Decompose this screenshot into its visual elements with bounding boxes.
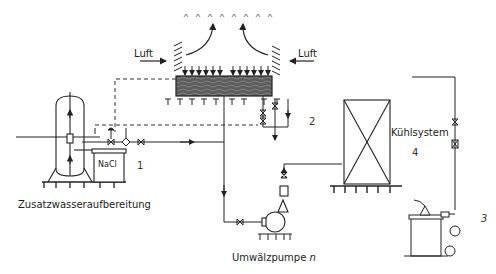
louver-right (272, 46, 280, 75)
vapor-marks (184, 14, 272, 17)
dosing-station (404, 200, 460, 256)
number-1: 1 (137, 161, 143, 171)
cooling-tower-basin (176, 76, 272, 96)
pump-supports (258, 234, 292, 240)
air-left-label: Luft (134, 49, 153, 59)
return-line (412, 77, 458, 210)
spray-arrows (185, 66, 268, 75)
salt-label: NaCl (98, 161, 117, 169)
cooling-system-supports (330, 186, 402, 193)
softener-vessel (16, 92, 100, 182)
number-4: 4 (412, 148, 418, 158)
pump-label-suffix: n (310, 252, 316, 263)
number-3: 3 (481, 214, 487, 224)
circulation-pipe (224, 96, 262, 225)
pump-label-text: Umwälzpumpe (232, 252, 310, 263)
exhaust-air-arrows (186, 24, 268, 55)
pump-symbol (262, 168, 288, 232)
number-2: 2 (309, 117, 315, 127)
cooling-system-box (344, 100, 390, 184)
louver-left (174, 42, 182, 71)
cooling-system-label: Kühlsystem (391, 128, 449, 138)
pump-label: Umwälzpumpe n (232, 253, 316, 263)
air-right-label: Luft (298, 49, 317, 59)
makeup-water-label: Zusatzwasseraufbereitung (18, 200, 151, 210)
softener-supports (42, 182, 126, 188)
pump-discharge-pipe (284, 164, 342, 168)
makeup-feed-line (82, 128, 224, 146)
